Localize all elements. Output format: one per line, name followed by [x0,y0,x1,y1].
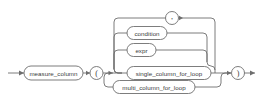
node-expr: expr [127,44,156,57]
measure-column-label: measure_column [29,70,78,77]
node-single-column-for-loop: single_column_for_loop [127,67,211,80]
entry-arrow [19,71,24,76]
node-measure-column: measure_column [24,66,83,80]
close-paren-label: ) [237,69,240,78]
single-column-for-loop-label: single_column_for_loop [136,70,203,77]
rail-arrow-closeparen [227,71,231,75]
node-multi-column-for-loop: multi_column_for_loop [113,81,195,94]
exit-arrow [250,71,255,76]
comma-label: , [171,12,173,21]
entry-rail-group [8,71,24,76]
expr-label: expr [135,47,147,54]
open-paren-label: ( [95,69,98,78]
inner-branch-left-up-expr [114,50,127,73]
railroad-diagram-svg: measure_column ( condition [0,0,278,107]
exit-rail-group [245,71,256,76]
terminal-open-paren: ( [90,67,103,80]
merge-inner-collect-corner [211,66,215,73]
multi-column-for-loop-label: multi_column_for_loop [122,84,186,91]
node-condition: condition [127,27,167,40]
inner-branch-left-up-condition [114,33,127,73]
terminal-comma: , [166,12,184,25]
terminal-close-paren: ) [232,67,245,80]
comma-arrow [179,16,183,20]
railroad-diagram-container: measure_column ( condition [0,0,278,107]
rail-arrow-openparen [86,71,90,75]
merge-condition-right [167,33,211,66]
merge-expr-right [156,50,207,62]
condition-label: condition [134,30,160,37]
comma-loop-right-up [179,18,215,70]
rail-measure-to-openparen-group [83,71,90,75]
